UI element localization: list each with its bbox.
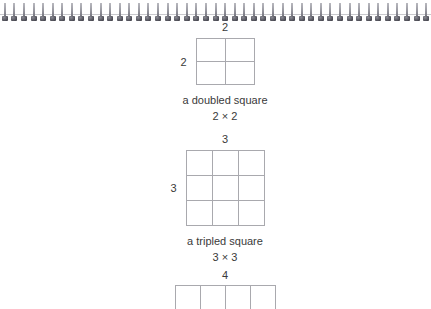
spiral-ring [80,3,82,18]
spiral-ring [253,3,255,18]
grid-wrap-tripled-square: 3 3 [186,150,265,226]
spiral-ring [282,3,284,18]
spiral-ring [23,3,25,18]
spiral-ring [425,3,427,18]
spiral-ring [243,3,245,18]
spiral-ring [128,3,130,18]
spiral-ring [195,3,197,18]
spiral-ring [157,3,159,18]
spiral-ring [42,3,44,18]
spiral-ring [387,3,389,18]
grid-cell [187,201,213,226]
grid-cell [197,39,226,62]
spiral-ring [52,3,54,18]
dimension-label-left-tripled-square: 3 [171,182,177,194]
grid-cell [251,286,276,309]
spiral-ring [100,3,102,18]
spiral-ring [138,3,140,18]
grid-cell [187,176,213,201]
spiral-ring [339,3,341,18]
spiral-ring [301,3,303,18]
grid-cell [201,286,226,309]
spiral-ring [224,3,226,18]
spiral-ring [358,3,360,18]
caption-tripled-square: a tripled square [140,234,310,248]
spiral-ring [320,3,322,18]
grid-cell [176,286,201,309]
spiral-ring [71,3,73,18]
spiral-ring [416,3,418,18]
dimension-label-top-quadrupled-square: 4 [175,269,276,281]
dimension-label-left-doubled-square: 2 [181,56,187,68]
spiral-ring [310,3,312,18]
spiral-ring [262,3,264,18]
spiral-ring [406,3,408,18]
equation-doubled-square: 2 × 2 [140,109,310,123]
grid-quadrupled-square [175,285,276,309]
grid-cell [239,201,265,226]
figure-doubled-square: 2 2 a doubled square 2 × 2 [140,38,310,123]
spiral-ring [167,3,169,18]
grid-doubled-square [196,38,255,85]
spiral-ring [119,3,121,18]
spiral-ring [147,3,149,18]
spiral-ring [205,3,207,18]
spiral-ring [349,3,351,18]
spiral-ring [33,3,35,18]
spiral-ring [329,3,331,18]
grid-cell [226,286,251,309]
grid-cell [239,176,265,201]
spiral-ring [90,3,92,18]
spiral-ring [215,3,217,18]
spiral-ring [377,3,379,18]
spiral-ring [61,3,63,18]
spiral-ring [291,3,293,18]
spiral-ring [109,3,111,18]
equation-tripled-square: 3 × 3 [140,250,310,264]
grid-cell [187,151,213,176]
figure-quadrupled-square: 4 [140,285,310,309]
grid-cell [226,62,255,85]
spiral-ring [13,3,15,18]
spiral-ring [176,3,178,18]
grid-tripled-square [186,150,265,226]
grid-cell [226,39,255,62]
dimension-label-top-tripled-square: 3 [186,133,265,145]
grid-cell [213,176,239,201]
spiral-ring [234,3,236,18]
grid-cell [197,62,226,85]
spiral-ring [186,3,188,18]
spiral-ring [396,3,398,18]
caption-doubled-square: a doubled square [140,93,310,107]
spiral-ring [4,3,6,18]
grid-wrap-quadrupled-square: 4 [175,285,276,309]
figure-tripled-square: 3 3 a tripled square 3 × 3 [140,150,310,264]
grid-cell [213,151,239,176]
grid-cell [239,151,265,176]
grid-cell [213,201,239,226]
grid-wrap-doubled-square: 2 2 [196,38,255,85]
spiral-ring [368,3,370,18]
dimension-label-top-doubled-square: 2 [196,21,255,33]
spiral-ring [272,3,274,18]
